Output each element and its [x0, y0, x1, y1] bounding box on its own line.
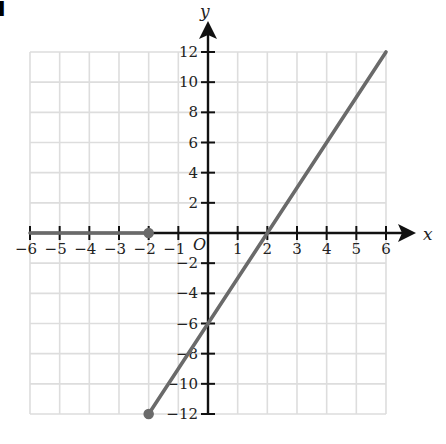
x-tick-label: 3 — [292, 240, 302, 258]
x-tick-label: −2 — [134, 240, 156, 258]
x-tick-label: 1 — [233, 240, 243, 258]
y-tick-label: −12 — [166, 405, 198, 423]
x-tick-label: 2 — [263, 240, 273, 258]
axes: xyO — [30, 1, 433, 414]
x-tick-label: −4 — [74, 240, 96, 258]
x-tick-label: −6 — [15, 240, 37, 258]
x-tick-label: −3 — [104, 240, 126, 258]
y-tick-label: 10 — [179, 73, 198, 91]
x-tick-label: 6 — [381, 240, 391, 258]
y-tick-label: 12 — [179, 43, 198, 61]
x-tick-label: 5 — [352, 240, 362, 258]
x-tick-label: −5 — [45, 240, 67, 258]
x-axis-label: x — [423, 224, 433, 244]
y-tick-label: 4 — [188, 164, 198, 182]
x-tick-label: 4 — [322, 240, 332, 258]
origin-label: O — [193, 235, 206, 254]
y-tick-label: −6 — [176, 315, 198, 333]
y-tick-label: −4 — [176, 284, 198, 302]
endpoint-dot-icon — [144, 229, 153, 238]
y-tick-label: 6 — [188, 134, 198, 152]
y-tick-label: 8 — [188, 103, 198, 121]
coordinate-plane: xyO −6−5−4−3−2−1123456−12−10−8−6−4−22468… — [0, 0, 446, 444]
y-axis-label: y — [199, 1, 210, 21]
endpoint-dot-icon — [144, 410, 153, 419]
y-tick-label: 2 — [188, 194, 198, 212]
y-tick-label: −2 — [176, 254, 198, 272]
